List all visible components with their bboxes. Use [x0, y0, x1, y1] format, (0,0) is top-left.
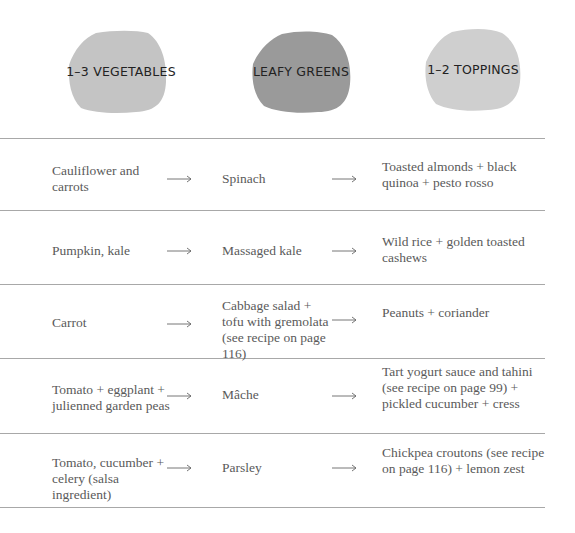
arrow-right-icon: [167, 463, 193, 473]
arrow-right-icon: [167, 246, 193, 256]
greens-cell: Parsley: [222, 460, 334, 476]
arrow-right-icon: [167, 174, 193, 184]
arrow-right-icon: [332, 391, 358, 401]
toppings-cell: Chickpea croutons (see recipe on page 11…: [382, 445, 547, 477]
table-row: Tomato + eggplant + julienned garden pea…: [0, 358, 575, 433]
table-row: Cauliflower and carrots Spinach Toasted …: [0, 138, 575, 210]
header-label: LEAFY GREENS: [250, 64, 352, 79]
header-toppings: 1–2 TOPPINGS: [424, 28, 522, 112]
table-row: Pumpkin, kale Massaged kale Wild rice + …: [0, 210, 575, 284]
vegetables-cell: Carrot: [52, 315, 177, 331]
header-label: 1–2 TOPPINGS: [424, 62, 522, 77]
arrow-right-icon: [167, 391, 193, 401]
greens-cell: Cabbage salad + tofu with gremolata (see…: [222, 298, 334, 362]
vegetables-cell: Cauliflower and carrots: [52, 163, 177, 195]
toppings-cell: Peanuts + coriander: [382, 305, 547, 321]
greens-cell: Mâche: [222, 387, 334, 403]
header-leafy-greens: LEAFY GREENS: [250, 30, 352, 114]
arrow-right-icon: [332, 174, 358, 184]
arrow-right-icon: [332, 246, 358, 256]
divider: [0, 507, 545, 508]
toppings-cell: Wild rice + golden toasted cashews: [382, 234, 547, 266]
table-row: Tomato, cucumber + celery (salsa ingredi…: [0, 433, 575, 507]
table-row: Carrot Cabbage salad + tofu with gremola…: [0, 284, 575, 358]
greens-cell: Massaged kale: [222, 243, 334, 259]
header-vegetables: 1–3 VEGETABLES: [66, 30, 168, 114]
toppings-cell: Toasted almonds + black quinoa + pesto r…: [382, 159, 547, 191]
vegetables-cell: Tomato, cucumber + celery (salsa ingredi…: [52, 455, 177, 503]
vegetables-cell: Pumpkin, kale: [52, 243, 177, 259]
arrow-right-icon: [332, 315, 358, 325]
arrow-right-icon: [332, 463, 358, 473]
vegetables-cell: Tomato + eggplant + julienned garden pea…: [52, 382, 177, 414]
toppings-cell: Tart yogurt sauce and tahini (see recipe…: [382, 364, 547, 412]
greens-cell: Spinach: [222, 171, 334, 187]
header-label: 1–3 VEGETABLES: [60, 64, 182, 79]
arrow-right-icon: [167, 319, 193, 329]
